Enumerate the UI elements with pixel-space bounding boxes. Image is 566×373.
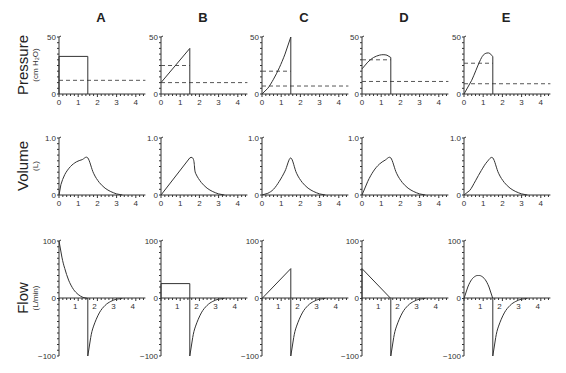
x-tick-label: 4 (536, 302, 541, 311)
y-tick-label: 1.0 (248, 134, 260, 143)
waveform-curve (464, 53, 493, 94)
y-tick-label: −100 (443, 352, 462, 361)
y-tick-label: 0 (355, 90, 360, 99)
y-tick-label: 1.0 (348, 134, 360, 143)
row-labels: Pressure(cm H₂O)Volume(L)Flow(L/min) (14, 35, 40, 314)
x-tick-label: 3 (314, 302, 319, 311)
x-tick-label: 0 (159, 98, 164, 107)
y-tick-label: 0 (355, 294, 360, 303)
x-tick-label: 1 (73, 302, 78, 311)
x-tick-label: 3 (516, 302, 521, 311)
y-tick-label: 0 (355, 191, 360, 200)
x-tick-label: 1 (279, 98, 284, 107)
row-title: Flow (14, 282, 31, 314)
x-tick-label: 4 (236, 98, 241, 107)
x-tick-label: 1 (178, 199, 183, 208)
waveform-curve (161, 157, 224, 195)
x-tick-label: 3 (216, 98, 221, 107)
panel-pressure-e: 01234500 (452, 33, 550, 107)
panel-flow-e: 12341000−100 (443, 237, 550, 361)
x-tick-label: 1 (481, 98, 486, 107)
x-tick-label: 2 (92, 302, 97, 311)
panels-grid: 0123450001234500012345000123450001234500… (38, 33, 550, 361)
y-tick-label: 1.0 (147, 134, 159, 143)
column-title-d: D (399, 10, 408, 25)
x-tick-label: 0 (260, 98, 265, 107)
x-tick-label: 1 (276, 302, 281, 311)
waveform-curve (59, 56, 88, 94)
x-tick-label: 2 (497, 302, 502, 311)
y-tick-label: −100 (38, 352, 57, 361)
y-tick-label: 50 (350, 33, 359, 42)
waveform-curve (262, 37, 291, 94)
x-tick-label: 4 (434, 302, 439, 311)
row-label-pressure: Pressure(cm H₂O) (14, 35, 40, 95)
x-tick-label: 1 (379, 199, 384, 208)
x-tick-label: 3 (519, 98, 524, 107)
panel-flow-d: 12341000−100 (341, 237, 448, 361)
y-tick-label: −100 (341, 352, 360, 361)
y-tick-label: 0 (154, 90, 159, 99)
waveform-curve (362, 269, 425, 356)
ventilator-waveforms-figure: ABCDE Pressure(cm H₂O)Volume(L)Flow(L/mi… (0, 0, 566, 373)
x-tick-label: 0 (57, 199, 62, 208)
waveform-curve (362, 157, 425, 195)
y-tick-label: 0 (457, 90, 462, 99)
waveform-curve (464, 157, 527, 195)
x-tick-label: 0 (360, 98, 365, 107)
y-tick-label: 1.0 (45, 134, 57, 143)
y-tick-label: 1.0 (450, 134, 462, 143)
waveform-curve (59, 157, 122, 195)
x-tick-label: 2 (298, 98, 303, 107)
waveform-curve (262, 158, 325, 195)
panel-volume-e: 012341.00 (450, 134, 551, 208)
x-tick-label: 2 (395, 302, 400, 311)
x-tick-label: 2 (197, 199, 202, 208)
x-tick-label: 1 (175, 302, 180, 311)
column-titles: ABCDE (96, 10, 510, 25)
panel-pressure-a: 01234500 (47, 33, 145, 107)
x-tick-label: 3 (114, 199, 119, 208)
x-tick-label: 1 (279, 199, 284, 208)
y-tick-label: 50 (250, 33, 259, 42)
x-tick-label: 2 (295, 302, 300, 311)
y-tick-label: 0 (255, 294, 260, 303)
x-tick-label: 3 (111, 302, 116, 311)
panel-volume-a: 012341.00 (45, 134, 146, 208)
panel-volume-c: 012341.00 (248, 134, 349, 208)
y-tick-label: 50 (47, 33, 56, 42)
y-tick-label: 100 (43, 237, 57, 246)
x-tick-label: 3 (317, 98, 322, 107)
x-tick-label: 1 (478, 302, 483, 311)
x-tick-label: 0 (260, 199, 265, 208)
x-tick-label: 0 (159, 199, 164, 208)
y-tick-label: 100 (448, 237, 462, 246)
panel-pressure-b: 01234500 (149, 33, 247, 107)
x-tick-label: 2 (194, 302, 199, 311)
y-tick-label: 50 (149, 33, 158, 42)
x-tick-label: 3 (519, 199, 524, 208)
panel-pressure-c: 01234500 (250, 33, 348, 107)
panel-flow-c: 12341000−100 (241, 237, 348, 361)
x-tick-label: 3 (216, 199, 221, 208)
waveform-curve (362, 55, 391, 94)
x-tick-label: 2 (500, 199, 505, 208)
y-tick-label: 100 (145, 237, 159, 246)
waveform-curve (161, 48, 190, 94)
x-tick-label: 1 (76, 199, 81, 208)
x-tick-label: 3 (417, 199, 422, 208)
y-tick-label: −100 (140, 352, 159, 361)
x-tick-label: 2 (398, 199, 403, 208)
x-tick-label: 4 (334, 302, 339, 311)
panel-volume-d: 012341.00 (348, 134, 449, 208)
y-tick-label: 0 (255, 90, 260, 99)
panel-pressure-d: 01234500 (350, 33, 448, 107)
x-tick-label: 4 (134, 98, 139, 107)
column-title-b: B (198, 10, 207, 25)
x-tick-label: 1 (76, 98, 81, 107)
x-tick-label: 4 (131, 302, 136, 311)
row-unit: (cm H₂O) (31, 48, 40, 82)
y-tick-label: 50 (452, 33, 461, 42)
x-tick-label: 2 (398, 98, 403, 107)
x-tick-label: 3 (114, 98, 119, 107)
